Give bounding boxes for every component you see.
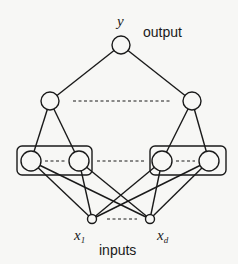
- input-last-label: xd: [156, 227, 169, 245]
- network-diagram: y output x1 xd inputs: [0, 0, 238, 264]
- node-h1d: [199, 151, 219, 171]
- output-var-label: y: [115, 13, 124, 29]
- node-xd: [146, 215, 155, 224]
- output-label: output: [143, 24, 182, 40]
- node-x1: [88, 215, 97, 224]
- node-h1c: [152, 151, 172, 171]
- node-h2a: [41, 92, 59, 110]
- edges: [31, 45, 209, 219]
- input-first-label: x1: [73, 227, 85, 245]
- edge-y-h2b: [121, 45, 192, 101]
- inputs-label: inputs: [99, 242, 136, 258]
- node-y: [112, 36, 130, 54]
- node-h1a: [21, 151, 41, 171]
- node-h2b: [183, 92, 201, 110]
- edge-y-h2a: [50, 45, 121, 101]
- node-h1b: [69, 151, 89, 171]
